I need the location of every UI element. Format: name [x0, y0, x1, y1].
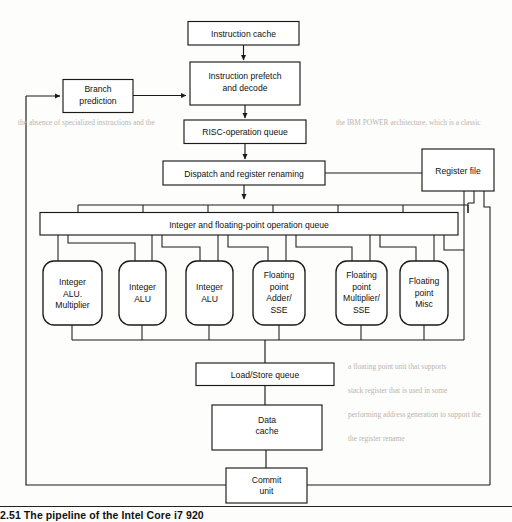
register-file-buses [464, 191, 490, 485]
op-queue-to-units-wires [58, 235, 464, 261]
label-load-store-queue: Load/Store queue [231, 370, 300, 380]
unit-3-line-1: point [270, 282, 289, 292]
unit-4-line-1: point [352, 282, 371, 292]
label-commit-unit-line2: unit [260, 486, 274, 496]
label-data-cache-line2: cache [256, 426, 279, 436]
label-branch-prediction-line2: prediction [79, 96, 116, 106]
label-instruction-cache: Instruction cache [211, 29, 276, 39]
label-prefetch-line2: and decode [223, 83, 268, 93]
unit-3-line-3: SSE [270, 305, 287, 315]
label-dispatch-and-register-renaming: Dispatch and register renaming [184, 169, 304, 179]
unit-2-line-0: Integer [196, 282, 223, 292]
label-branch-prediction-line1: Branch [84, 84, 111, 94]
unit-4-line-0: Floating [346, 270, 377, 280]
label-prefetch-line1: Instruction prefetch [208, 71, 281, 81]
block-diagram-svg: Instruction cache Instruction prefetch a… [0, 0, 512, 522]
unit-3-line-2: Adder/ [266, 293, 292, 303]
label-operation-queue: Integer and floating-point operation que… [169, 220, 329, 230]
unit-0-line-2: Multiplier [55, 300, 90, 310]
label-register-file: Register file [435, 166, 481, 176]
unit-1-line-1: ALU [134, 294, 151, 304]
figure-caption: 2.51 The pipeline of the Intel Core i7 9… [0, 509, 512, 522]
unit-5-line-0: Floating [409, 276, 440, 286]
execution-units [43, 261, 448, 325]
unit-3-line-0: Floating [264, 270, 295, 280]
figure-canvas: Instruction cache Instruction prefetch a… [0, 0, 512, 522]
op-queue-top-feeders [78, 205, 468, 213]
unit-5-line-1: point [415, 288, 434, 298]
label-risc-operation-queue: RISC-operation queue [202, 127, 288, 137]
label-commit-unit-line1: Commit [252, 475, 282, 485]
unit-2-line-1: ALU [201, 294, 218, 304]
unit-5-line-2: Misc [415, 299, 433, 309]
caption-rule [0, 506, 512, 507]
unit-0-line-0: Integer [59, 277, 86, 287]
unit-0-line-1: ALU. [63, 289, 82, 299]
unit-1-line-0: Integer [129, 282, 156, 292]
unit-4-line-2: Multiplier/ [343, 293, 380, 303]
unit-4-line-3: SSE [353, 305, 370, 315]
label-data-cache-line1: Data [258, 415, 276, 425]
